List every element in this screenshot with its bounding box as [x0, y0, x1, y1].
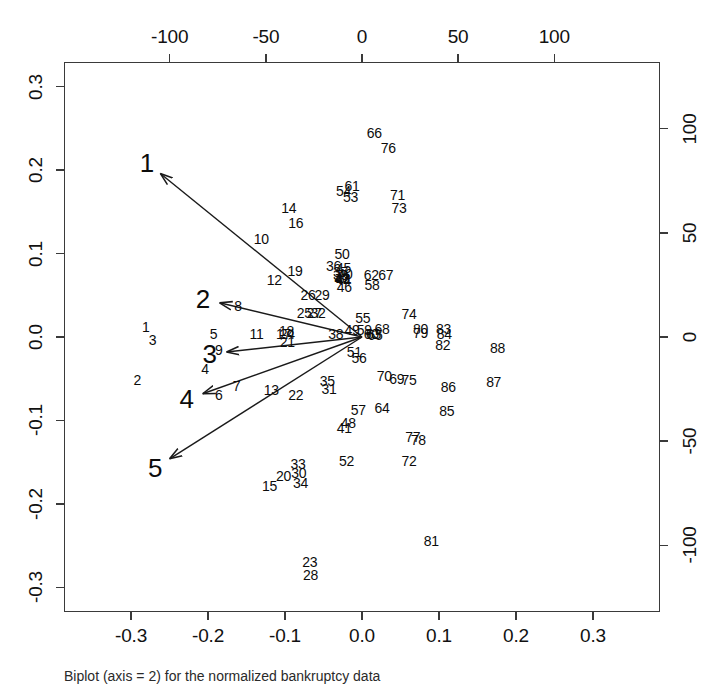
axis-label-bottom: 0.2: [503, 625, 529, 647]
axis-tick: [554, 54, 556, 62]
axis-label-top: -100: [151, 26, 188, 48]
data-point-label: 74: [401, 306, 416, 322]
axis-label-top: 0: [357, 26, 367, 48]
data-point-label: 32: [311, 305, 326, 321]
axis-tick: [660, 336, 668, 338]
data-point-label: 84: [437, 326, 452, 342]
data-point-label: 22: [288, 387, 303, 403]
axis-tick: [660, 545, 668, 547]
axis-label-left: 0.3: [25, 74, 47, 100]
axis-label-bottom: -0.3: [115, 625, 147, 647]
data-point-label: 50: [334, 246, 349, 262]
figure-caption: Biplot (axis = 2) for the normalized ban…: [64, 668, 704, 684]
data-point-label: 12: [267, 272, 282, 288]
data-point-label: 8: [234, 298, 242, 314]
data-point-label: 70: [377, 368, 392, 384]
axis-tick: [660, 232, 668, 234]
axis-tick: [56, 169, 64, 171]
data-point-label: 38: [328, 326, 343, 342]
data-point-label: 26: [301, 287, 316, 303]
axis-tick: [660, 128, 668, 130]
axis-label-right: 50: [679, 222, 701, 243]
axis-tick: [169, 54, 171, 62]
axis-label-right: -50: [679, 428, 701, 455]
data-point-label: 34: [293, 475, 308, 491]
data-point-label: 20: [276, 468, 291, 484]
axis-label-right: 100: [679, 113, 701, 144]
data-point-label: 78: [411, 432, 426, 448]
data-point-label: 88: [490, 340, 505, 356]
axis-tick: [56, 503, 64, 505]
axis-tick: [361, 612, 363, 620]
data-point-label: 28: [303, 567, 318, 583]
axis-tick: [56, 587, 64, 589]
arrow-label: 1: [140, 147, 154, 178]
data-point-label: 80: [413, 321, 428, 337]
data-point-label: 85: [439, 403, 454, 419]
data-point-label: 7: [233, 378, 241, 394]
axis-label-bottom: 0.0: [349, 625, 375, 647]
axis-tick: [207, 612, 209, 620]
data-point-label: 87: [486, 374, 501, 390]
axis-label-left: -0.1: [25, 404, 47, 436]
biplot-figure: -0.3-0.2-0.10.00.10.20.3-100-50050100-0.…: [0, 0, 727, 687]
arrow-label: 5: [148, 452, 162, 483]
data-point-label: 24: [280, 326, 295, 342]
axis-label-top: 50: [448, 26, 469, 48]
data-point-label: 52: [339, 453, 354, 469]
axis-label-left: 0.2: [25, 157, 47, 183]
data-point-label: 68: [375, 321, 390, 337]
data-point-label: 73: [391, 200, 406, 216]
arrow-label: 4: [179, 384, 193, 415]
data-point-label: 47: [334, 271, 349, 287]
data-point-label: 81: [424, 533, 439, 549]
data-point-label: 35: [320, 373, 335, 389]
axis-tick: [361, 54, 363, 62]
data-point-label: 16: [288, 215, 303, 231]
data-point-label: 56: [351, 350, 366, 366]
data-point-label: 19: [288, 263, 303, 279]
axis-label-bottom: 0.3: [580, 625, 606, 647]
variable-arrow: [170, 337, 362, 459]
data-point-label: 86: [441, 379, 456, 395]
data-point-label: 13: [264, 382, 279, 398]
axis-tick: [265, 54, 267, 62]
axis-tick: [438, 612, 440, 620]
axis-label-left: 0.0: [25, 324, 47, 350]
axis-tick: [130, 612, 132, 620]
axis-tick: [56, 253, 64, 255]
data-point-label: 61: [344, 178, 359, 194]
data-point-label: 64: [375, 400, 390, 416]
data-point-label: 14: [281, 200, 296, 216]
axis-label-right: -100: [679, 527, 701, 564]
axis-label-left: -0.2: [25, 488, 47, 520]
data-point-label: 3: [149, 332, 157, 348]
axis-label-right: 0: [679, 332, 701, 342]
axis-tick: [592, 612, 594, 620]
data-point-label: 15: [262, 478, 277, 494]
axis-tick: [515, 612, 517, 620]
data-point-label: 29: [314, 287, 329, 303]
data-point-label: 67: [378, 267, 393, 283]
data-point-label: 2: [133, 372, 141, 388]
axis-tick: [56, 86, 64, 88]
axis-label-bottom: 0.1: [426, 625, 452, 647]
data-point-label: 76: [381, 140, 396, 156]
data-point-label: 75: [401, 372, 416, 388]
data-point-label: 11: [250, 326, 264, 342]
arrow-label: 3: [202, 338, 216, 369]
axis-tick: [457, 54, 459, 62]
axis-label-bottom: -0.1: [269, 625, 301, 647]
data-point-label: 57: [351, 402, 366, 418]
data-point-label: 10: [254, 231, 269, 247]
axis-tick: [56, 336, 64, 338]
data-point-label: 66: [367, 125, 382, 141]
data-point-label: 6: [215, 387, 223, 403]
data-point-label: 62: [364, 267, 379, 283]
axis-label-left: 0.1: [25, 241, 47, 267]
data-point-label: 72: [401, 453, 416, 469]
axis-label-bottom: -0.2: [192, 625, 224, 647]
arrow-label: 2: [196, 283, 210, 314]
axis-label-top: -50: [252, 26, 279, 48]
axis-tick: [284, 612, 286, 620]
